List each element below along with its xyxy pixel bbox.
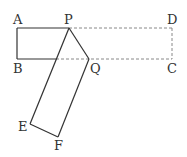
label-A: A bbox=[12, 12, 23, 27]
segment-EF bbox=[30, 124, 58, 137]
label-D: D bbox=[167, 12, 177, 27]
label-B: B bbox=[13, 61, 23, 76]
label-Q: Q bbox=[90, 61, 101, 76]
solid-lines bbox=[17, 28, 89, 137]
fold-diagram: A P D B Q C E F bbox=[0, 0, 187, 157]
segment-PE bbox=[30, 28, 69, 124]
dashed-rectangle-part bbox=[56, 28, 172, 59]
label-C: C bbox=[167, 61, 177, 76]
label-P: P bbox=[64, 12, 73, 27]
label-E: E bbox=[18, 119, 28, 134]
segment-FQ bbox=[58, 59, 89, 137]
segment-PQ bbox=[69, 28, 89, 59]
label-F: F bbox=[54, 138, 63, 153]
